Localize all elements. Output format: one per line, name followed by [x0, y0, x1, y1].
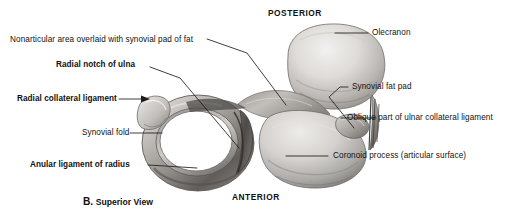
label-synovial-fat-pad: Synovial fat pad	[352, 82, 412, 92]
orientation-anterior: ANTERIOR	[232, 192, 280, 202]
label-oblique-part-ulnar-collateral-ligament: Oblique part of ulnar collateral ligamen…	[347, 113, 493, 123]
label-nonarticular-area: Nonarticular area overlaid with synovial…	[10, 35, 193, 45]
figure-caption-text: Superior View	[96, 197, 153, 207]
label-olecranon: Olecranon	[372, 28, 411, 38]
label-radial-collateral-ligament: Radial collateral ligament	[17, 94, 117, 104]
proximal-ulna-illustration	[0, 0, 514, 218]
orientation-posterior: POSTERIOR	[268, 8, 322, 18]
anatomy-figure: Nonarticular area overlaid with synovial…	[0, 0, 514, 218]
figure-caption: B. Superior View	[83, 196, 153, 207]
figure-caption-letter: B.	[83, 196, 93, 207]
radial-head-cavity	[160, 111, 232, 171]
label-anular-ligament-of-radius: Anular ligament of radius	[30, 160, 130, 170]
label-radial-notch-of-ulna: Radial notch of ulna	[56, 60, 135, 70]
label-coronoid-process: Coronoid process (articular surface)	[333, 151, 466, 161]
label-synovial-fold: Synovial fold	[82, 128, 130, 138]
